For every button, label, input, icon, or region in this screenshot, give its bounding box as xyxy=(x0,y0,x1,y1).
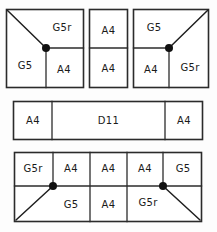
cell-label-tl-a4: A4 xyxy=(57,64,71,75)
bottom-left-node xyxy=(49,182,57,190)
cell-label-tl-g5r: G5r xyxy=(52,22,72,33)
middle-panel: A4 D11 A4 xyxy=(14,102,203,140)
cell-label-tm-a4-lower: A4 xyxy=(102,63,116,74)
cell-label-bb-g5: G5 xyxy=(64,199,79,210)
bottom-panel: G5r A4 A4 A4 G5 G5 A4 G5r xyxy=(15,153,202,222)
cell-label-bt-a4-1: A4 xyxy=(64,163,78,174)
top-right-panel: G5 A4 G5r xyxy=(134,10,209,88)
cell-label-mid-a4-left: A4 xyxy=(26,115,40,126)
cell-label-tr-g5r: G5r xyxy=(180,62,200,73)
cell-label-tl-g5: G5 xyxy=(18,60,33,71)
cell-label-bt-a4-2: A4 xyxy=(102,163,116,174)
cell-label-tm-a4-upper: A4 xyxy=(102,25,116,36)
cell-label-mid-d11: D11 xyxy=(98,115,119,126)
diagram-canvas: G5r G5 A4 A4 A4 G5 A4 G5r xyxy=(0,0,217,232)
panel-layout-diagram: G5r G5 A4 A4 A4 G5 A4 G5r xyxy=(0,0,217,232)
bottom-right-node xyxy=(159,182,167,190)
top-middle-panel: A4 A4 xyxy=(90,10,128,88)
top-left-node xyxy=(42,44,50,52)
cell-label-bb-a4: A4 xyxy=(102,199,116,210)
cell-label-tr-a4: A4 xyxy=(144,64,158,75)
cell-label-bb-g5r: G5r xyxy=(138,197,158,208)
cell-label-bt-g5: G5 xyxy=(176,163,191,174)
cell-label-mid-a4-right: A4 xyxy=(177,115,191,126)
cell-label-bt-g5r: G5r xyxy=(23,163,43,174)
cell-label-tr-g5: G5 xyxy=(147,22,162,33)
cell-label-bt-a4-3: A4 xyxy=(138,163,152,174)
top-right-node xyxy=(165,44,173,52)
top-left-panel: G5r G5 A4 xyxy=(7,10,84,88)
